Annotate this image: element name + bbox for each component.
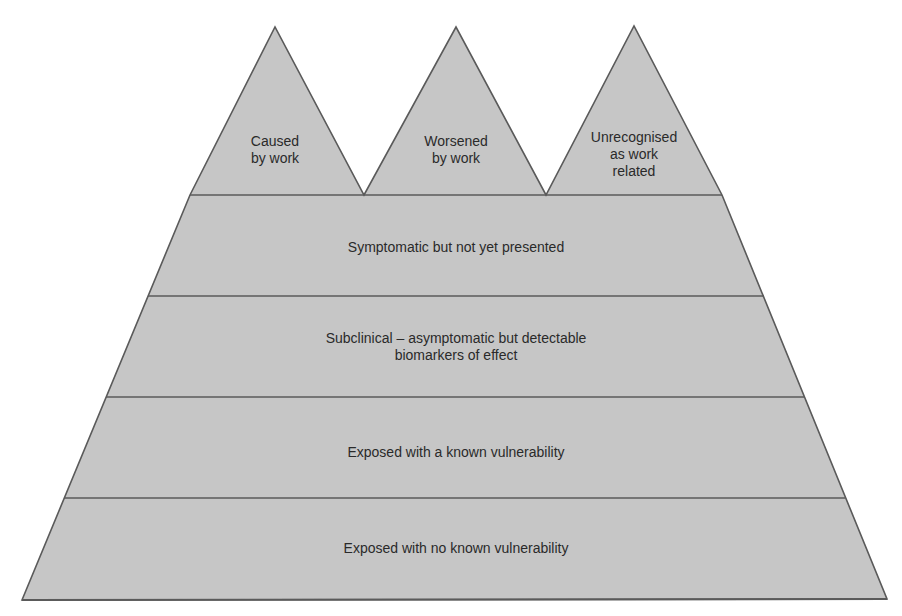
pyramid-body [22,26,887,600]
layer-label-no-known-vulnerability: Exposed with no known vulnerability [344,540,569,557]
peak-label-worsened: Worsened by work [424,133,488,167]
base-line [22,599,887,600]
peak-label-unrecognised: Unrecognised as work related [591,129,677,180]
pyramid-diagram [0,0,902,616]
layer-label-known-vulnerability: Exposed with a known vulnerability [347,444,564,461]
peak-label-caused: Caused by work [251,133,299,167]
layer-label-subclinical: Subclinical – asymptomatic but detectabl… [326,330,587,364]
layer-label-symptomatic: Symptomatic but not yet presented [348,239,564,256]
